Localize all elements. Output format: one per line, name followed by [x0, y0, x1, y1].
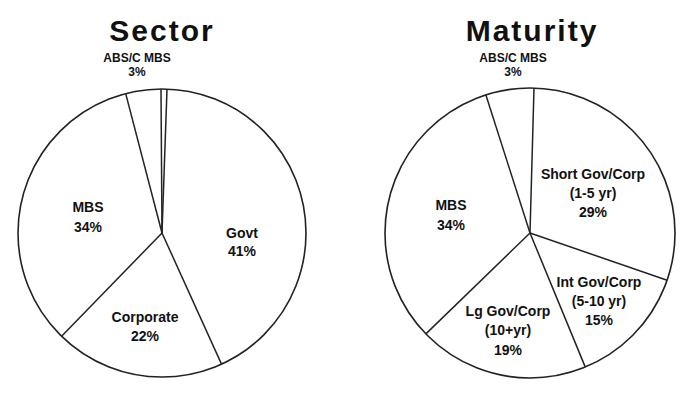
maturity-int-range: (5-10 yr)	[572, 293, 626, 309]
maturity-short-range: (1-5 yr)	[570, 185, 617, 201]
sector-govt-pct: 41%	[228, 243, 257, 259]
maturity-short-label: Short Gov/Corp	[541, 166, 645, 182]
maturity-lg-pct: 19%	[494, 342, 523, 358]
maturity-mbs-label: MBS	[435, 197, 466, 213]
sector-govt-label: Govt	[226, 225, 258, 241]
pie-charts-canvas: Govt 41% Corporate 22% MBS 34% Short Gov…	[0, 0, 690, 407]
maturity-short-pct: 29%	[579, 204, 608, 220]
sector-mbs-label: MBS	[72, 199, 103, 215]
maturity-int-pct: 15%	[585, 312, 614, 328]
sector-corporate-label: Corporate	[112, 309, 179, 325]
maturity-lg-range: (10+yr)	[485, 322, 531, 338]
sector-corporate-pct: 22%	[131, 328, 160, 344]
maturity-mbs-pct: 34%	[437, 217, 466, 233]
sector-mbs-pct: 34%	[74, 219, 103, 235]
slice-boundary	[161, 89, 162, 233]
sector-pie	[18, 89, 306, 377]
maturity-int-label: Int Gov/Corp	[557, 274, 642, 290]
maturity-lg-label: Lg Gov/Corp	[466, 303, 551, 319]
